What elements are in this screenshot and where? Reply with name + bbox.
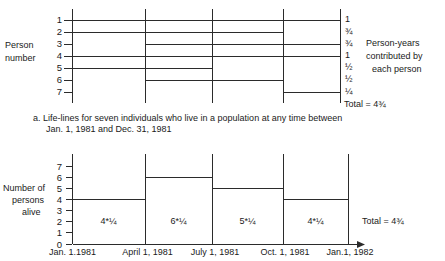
top-ytick-3: 3 xyxy=(46,38,62,49)
xtick-label-july-1981: July 1, 1981 xyxy=(175,247,255,258)
population-step-line xyxy=(73,178,349,200)
contribution-person-6: ½ xyxy=(345,74,353,85)
top-axis-title-line1: Person xyxy=(5,40,34,51)
top-total-label: Total = 4¾ xyxy=(344,99,386,110)
top-ytick-4: 4 xyxy=(46,50,62,61)
segment-label-q3: 5*¼ xyxy=(212,216,283,227)
bottom-ytick-7: 7 xyxy=(48,161,62,172)
contribution-person-1: 1 xyxy=(345,14,350,25)
segment-label-q2: 6*¼ xyxy=(145,216,212,227)
bottom-ytick-1: 1 xyxy=(48,227,62,238)
figure-caption-line2: Jan. 1, 1981 and Dec. 31, 1981 xyxy=(46,124,172,135)
xtick-label-jan-1981: Jan. 1.1981 xyxy=(30,247,115,258)
top-axis-title-line2: number xyxy=(5,53,36,64)
contribution-person-3: ¾ xyxy=(345,38,353,49)
contribution-person-7: ¼ xyxy=(345,86,353,97)
figure-root: 1 2 3 4 5 6 7 Person number 1 ¾ ¾ 1 ½ ½ … xyxy=(0,0,445,261)
bottom-axis-title-line1: Number of xyxy=(3,183,45,194)
bottom-ytick-6: 6 xyxy=(48,172,62,183)
right-caption-line2: contributed by xyxy=(366,51,423,62)
bottom-ytick-5: 5 xyxy=(48,183,62,194)
bottom-axis-title-line3: alive xyxy=(22,207,41,218)
bottom-axis-title-line2: persons xyxy=(12,195,44,206)
top-ytick-2: 2 xyxy=(46,26,62,37)
bottom-ytick-2: 2 xyxy=(48,216,62,227)
top-ytick-5: 5 xyxy=(46,62,62,73)
bottom-ytick-4: 4 xyxy=(48,194,62,205)
bottom-total-label: Total = 4¾ xyxy=(362,216,404,227)
bottom-chart-svg xyxy=(0,150,445,260)
right-caption-line3: each person xyxy=(372,64,422,75)
segment-label-q1: 4*¼ xyxy=(72,216,145,227)
figure-caption-line1: a. Life-lines for seven individuals who … xyxy=(33,113,342,124)
contribution-person-5: ½ xyxy=(345,62,353,73)
xtick-label-jan-1982: Jan.1, 1982 xyxy=(310,247,390,258)
contribution-person-4: 1 xyxy=(345,50,350,61)
segment-label-q4: 4*¼ xyxy=(283,216,348,227)
top-ytick-6: 6 xyxy=(46,74,62,85)
right-caption-line1: Person-years xyxy=(366,38,420,49)
top-ytick-7: 7 xyxy=(46,86,62,97)
top-ytick-1: 1 xyxy=(46,14,62,25)
bottom-ytick-3: 3 xyxy=(48,205,62,216)
contribution-person-2: ¾ xyxy=(345,26,353,37)
